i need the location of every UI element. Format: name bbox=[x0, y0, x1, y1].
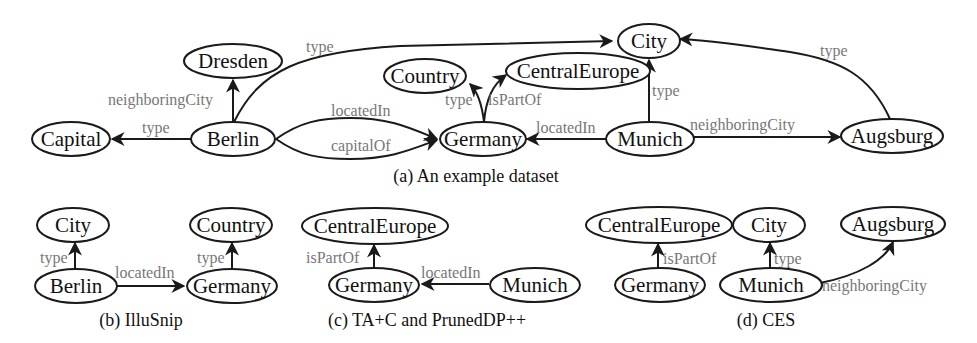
node-d-city: City bbox=[733, 208, 805, 242]
svg-text:Germany: Germany bbox=[621, 273, 700, 297]
svg-text:Capital: Capital bbox=[41, 127, 102, 151]
edge-label: locatedIn bbox=[421, 264, 481, 281]
node-augsburg: Augsburg bbox=[841, 119, 943, 153]
svg-text:Germany: Germany bbox=[193, 274, 272, 298]
node-b-berlin: Berlin bbox=[35, 269, 117, 303]
edge-label: type bbox=[774, 250, 802, 268]
node-b-city: City bbox=[37, 208, 109, 242]
caption-a: (a) An example dataset bbox=[393, 166, 558, 187]
svg-text:CentralEurope: CentralEurope bbox=[598, 213, 720, 237]
edge-label: type bbox=[445, 91, 473, 109]
svg-text:CentralEurope: CentralEurope bbox=[314, 214, 436, 238]
edge-berlin-locatedin-germany bbox=[276, 118, 437, 139]
edge-label: locatedIn bbox=[536, 119, 596, 136]
node-country: Country bbox=[384, 59, 466, 93]
edge-label: isPartOf bbox=[306, 249, 360, 266]
svg-text:City: City bbox=[55, 213, 92, 237]
caption-c: (c) TA+C and PrunedDP++ bbox=[328, 310, 526, 331]
svg-text:Munich: Munich bbox=[738, 273, 804, 297]
edge-label: locatedIn bbox=[331, 102, 391, 119]
panel-a: neighboringCity type type locatedIn capi… bbox=[32, 24, 943, 187]
edge-label: type bbox=[652, 82, 680, 100]
edge-label: neighboringCity bbox=[108, 91, 213, 109]
edge-label: locatedIn bbox=[115, 264, 175, 281]
node-munich: Munich bbox=[606, 122, 694, 156]
node-centraleurope: CentralEurope bbox=[506, 53, 650, 89]
caption-d: (d) CES bbox=[737, 310, 796, 331]
svg-text:Berlin: Berlin bbox=[207, 127, 260, 151]
svg-text:City: City bbox=[631, 29, 668, 53]
node-b-country: Country bbox=[190, 208, 272, 242]
node-c-centraleurope: CentralEurope bbox=[302, 208, 448, 244]
node-d-centraleurope: CentralEurope bbox=[586, 207, 732, 243]
svg-text:Country: Country bbox=[197, 213, 266, 237]
edge-label: type bbox=[820, 42, 848, 60]
svg-text:City: City bbox=[751, 213, 788, 237]
edge-label: capitalOf bbox=[331, 137, 391, 155]
edge-label: type bbox=[306, 38, 334, 56]
svg-text:Germany: Germany bbox=[444, 127, 523, 151]
svg-text:Munich: Munich bbox=[502, 273, 568, 297]
svg-text:Munich: Munich bbox=[617, 127, 683, 151]
knowledge-graph-figure: neighboringCity type type locatedIn capi… bbox=[0, 0, 977, 343]
node-berlin: Berlin bbox=[191, 122, 275, 156]
edge-label: type bbox=[40, 249, 68, 267]
node-dresden: Dresden bbox=[184, 44, 282, 78]
svg-text:Germany: Germany bbox=[335, 273, 414, 297]
svg-text:Augsburg: Augsburg bbox=[851, 124, 934, 148]
svg-text:Berlin: Berlin bbox=[50, 274, 103, 298]
node-city: City bbox=[618, 24, 680, 58]
edge-label: isPartOf bbox=[488, 91, 542, 108]
node-d-munich: Munich bbox=[720, 268, 822, 302]
svg-text:Augsburg: Augsburg bbox=[852, 212, 935, 236]
edge-label: neighboringCity bbox=[690, 116, 795, 134]
node-c-munich: Munich bbox=[490, 268, 580, 302]
node-capital: Capital bbox=[32, 122, 110, 156]
edge-label: neighboringCity bbox=[822, 277, 927, 295]
edge-label: isPartOf bbox=[663, 250, 717, 267]
node-b-germany: Germany bbox=[187, 269, 277, 303]
edge-augsburg-type-city bbox=[680, 39, 890, 119]
panel-c: isPartOf locatedIn CentralEurope Germany… bbox=[302, 208, 580, 331]
edge-label: type bbox=[142, 119, 170, 137]
edge-label: type bbox=[197, 249, 225, 267]
node-c-germany: Germany bbox=[329, 268, 419, 302]
svg-text:Dresden: Dresden bbox=[198, 49, 268, 73]
svg-text:CentralEurope: CentralEurope bbox=[517, 59, 639, 83]
node-germany: Germany bbox=[440, 122, 526, 156]
panel-d: isPartOf type neighboringCity CentralEur… bbox=[586, 207, 945, 331]
node-d-augsburg: Augsburg bbox=[841, 207, 945, 241]
svg-text:Country: Country bbox=[391, 64, 460, 88]
panel-b: type locatedIn type City Berlin Country … bbox=[35, 208, 277, 331]
node-d-germany: Germany bbox=[615, 268, 705, 302]
caption-b: (b) IlluSnip bbox=[99, 310, 183, 331]
